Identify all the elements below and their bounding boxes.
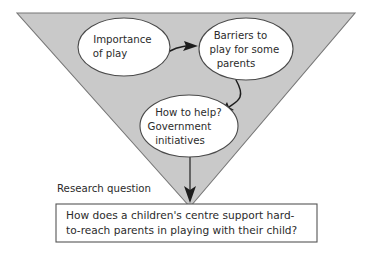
research-question-caption: Research question bbox=[57, 183, 151, 194]
research-funnel-diagram: Importance of play Barriers to play for … bbox=[0, 0, 370, 261]
bubble-importance-of-play bbox=[78, 18, 170, 76]
diagram-canvas: Importance of play Barriers to play for … bbox=[0, 0, 370, 261]
